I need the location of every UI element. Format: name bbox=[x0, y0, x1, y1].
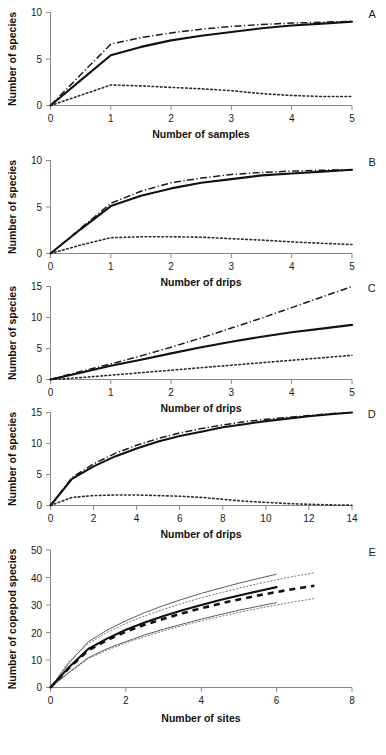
panel-b-ytick-labels: 10 5 0 bbox=[31, 155, 43, 259]
series-observed-solid bbox=[51, 22, 353, 106]
y-tick-label: 10 bbox=[31, 438, 43, 449]
x-axis-label: Number of sites bbox=[161, 712, 241, 724]
y-tick-label: 15 bbox=[31, 407, 43, 418]
x-tick-label: 2 bbox=[123, 695, 129, 706]
x-tick-label: 5 bbox=[349, 387, 355, 398]
x-tick-label: 4 bbox=[289, 113, 295, 124]
y-tick-marks bbox=[46, 287, 51, 380]
panel-d-plot: 15 10 5 0 0 2 4 6 8 10 12 14 Number of d… bbox=[0, 400, 386, 548]
x-tick-marks bbox=[51, 380, 353, 385]
x-tick-label: 3 bbox=[229, 387, 235, 398]
y-tick-label: 0 bbox=[36, 374, 42, 385]
x-tick-label: 0 bbox=[48, 261, 54, 272]
panel-e-axes bbox=[46, 550, 352, 692]
y-tick-label: 10 bbox=[31, 655, 43, 666]
panel-c-curves bbox=[51, 287, 353, 380]
series-upper-ci-dotted bbox=[51, 573, 315, 688]
y-axis-label: Number of copepod species bbox=[6, 549, 18, 690]
y-tick-label: 40 bbox=[31, 573, 43, 584]
y-tick-label: 30 bbox=[31, 600, 43, 611]
series-estimated-dashdot bbox=[51, 287, 353, 380]
x-tick-label: 12 bbox=[303, 513, 315, 524]
panel-a-ytick-labels: 10 5 0 bbox=[31, 7, 43, 111]
series-estimated-dashdot bbox=[51, 21, 353, 105]
y-tick-label: 10 bbox=[31, 155, 43, 166]
series-lower-ci-dotted bbox=[51, 599, 315, 688]
axis-lines bbox=[51, 286, 353, 380]
x-tick-label: 3 bbox=[229, 261, 235, 272]
x-tick-label: 8 bbox=[349, 695, 355, 706]
panel-d-ytick-labels: 15 10 5 0 bbox=[31, 407, 43, 511]
panel-e-xtick-labels: 0 2 4 6 8 bbox=[48, 695, 356, 706]
axis-lines bbox=[51, 412, 353, 506]
y-tick-label: 10 bbox=[31, 7, 43, 18]
panel-e-curves bbox=[51, 573, 315, 688]
x-tick-label: 2 bbox=[168, 113, 174, 124]
panel-a-plot: 10 5 0 0 1 2 3 4 5 Number of samples Num… bbox=[0, 0, 386, 148]
x-tick-label: 4 bbox=[289, 387, 295, 398]
y-tick-label: 0 bbox=[36, 248, 42, 259]
x-tick-label: 1 bbox=[108, 387, 114, 398]
y-tick-marks bbox=[46, 161, 51, 254]
series-estimated-dashdot bbox=[51, 413, 353, 506]
y-tick-label: 50 bbox=[31, 545, 43, 556]
y-tick-label: 0 bbox=[36, 682, 42, 693]
series-singletons-dotted bbox=[51, 495, 353, 506]
panel-c-xtick-labels: 0 1 2 3 4 5 bbox=[48, 387, 356, 398]
series-singletons-dotted bbox=[51, 85, 353, 106]
y-tick-marks bbox=[46, 413, 51, 506]
panel-e-plot: 50 40 30 20 10 0 0 2 4 6 8 Number of sit… bbox=[0, 532, 386, 755]
axis-lines bbox=[51, 12, 353, 106]
panel-a: 10 5 0 0 1 2 3 4 5 Number of samples Num… bbox=[0, 0, 386, 148]
x-tick-marks bbox=[51, 688, 353, 693]
y-axis-label: Number of species bbox=[6, 160, 18, 254]
x-tick-label: 2 bbox=[168, 387, 174, 398]
x-tick-label: 0 bbox=[48, 113, 54, 124]
x-tick-label: 4 bbox=[289, 261, 295, 272]
panel-b-curves bbox=[51, 170, 353, 254]
x-tick-label: 4 bbox=[199, 695, 205, 706]
panel-b-xtick-labels: 0 1 2 3 4 5 bbox=[48, 261, 356, 272]
x-tick-label: 3 bbox=[229, 113, 235, 124]
series-singletons-dotted bbox=[51, 355, 353, 379]
x-tick-marks bbox=[51, 106, 353, 111]
species-accumulation-figure: 10 5 0 0 1 2 3 4 5 Number of samples Num… bbox=[0, 0, 386, 755]
panel-letter-e: E bbox=[368, 546, 376, 558]
series-observed-solid bbox=[51, 325, 353, 380]
series-singletons-dotted bbox=[51, 237, 353, 254]
series-upper-ci-thin bbox=[51, 574, 277, 687]
x-tick-label: 2 bbox=[168, 261, 174, 272]
x-tick-label: 5 bbox=[349, 261, 355, 272]
y-tick-label: 20 bbox=[31, 628, 43, 639]
panel-letter-d: D bbox=[368, 408, 376, 420]
x-tick-label: 4 bbox=[134, 513, 140, 524]
axis-lines bbox=[51, 160, 353, 254]
series-observed-solid bbox=[51, 413, 353, 506]
y-axis-label: Number of species bbox=[6, 12, 18, 106]
y-tick-label: 0 bbox=[36, 100, 42, 111]
y-tick-label: 0 bbox=[36, 500, 42, 511]
panel-d: 15 10 5 0 0 2 4 6 8 10 12 14 Number of d… bbox=[0, 400, 386, 548]
y-tick-label: 15 bbox=[31, 281, 43, 292]
x-tick-label: 6 bbox=[274, 695, 280, 706]
y-tick-label: 10 bbox=[31, 312, 43, 323]
panel-d-curves bbox=[51, 413, 353, 506]
x-tick-label: 2 bbox=[91, 513, 97, 524]
x-tick-label: 1 bbox=[108, 261, 114, 272]
x-tick-label: 0 bbox=[48, 695, 54, 706]
x-tick-marks bbox=[51, 506, 353, 511]
x-tick-marks bbox=[51, 254, 353, 259]
panel-c-ytick-labels: 15 10 5 0 bbox=[31, 281, 43, 385]
y-tick-label: 5 bbox=[36, 469, 42, 480]
panel-letter-b: B bbox=[368, 156, 376, 168]
panel-e: 50 40 30 20 10 0 0 2 4 6 8 Number of sit… bbox=[0, 532, 386, 755]
y-tick-label: 5 bbox=[36, 54, 42, 65]
x-tick-label: 5 bbox=[349, 113, 355, 124]
x-tick-label: 0 bbox=[48, 387, 54, 398]
y-axis-label: Number of species bbox=[6, 286, 18, 380]
x-tick-label: 0 bbox=[48, 513, 54, 524]
x-tick-label: 6 bbox=[177, 513, 183, 524]
panel-letter-c: C bbox=[368, 282, 376, 294]
x-tick-label: 10 bbox=[260, 513, 272, 524]
x-tick-label: 14 bbox=[346, 513, 358, 524]
